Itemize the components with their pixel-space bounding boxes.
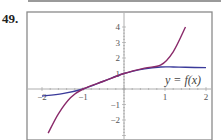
y-tick-label: 2 — [116, 53, 121, 63]
x-tick-label: 1 — [163, 92, 168, 102]
x-tick-label: −2 — [37, 92, 47, 102]
chart: −2−112−2−11234 y = f(x) — [0, 0, 221, 140]
y-tick-label: −2 — [110, 115, 120, 125]
function-label: y = f(x) — [164, 73, 201, 87]
y-tick-label: 4 — [116, 22, 121, 32]
x-tick-label: −1 — [78, 92, 88, 102]
x-tick-label: 2 — [204, 92, 209, 102]
y-tick-label: −1 — [110, 100, 120, 110]
y-tick-label: 3 — [116, 38, 121, 48]
